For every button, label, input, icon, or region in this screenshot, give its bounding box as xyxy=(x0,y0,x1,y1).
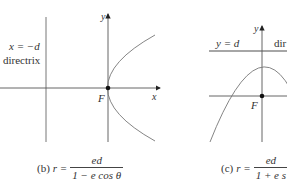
caption-prefix-c: (c) xyxy=(221,162,233,174)
focus-dot-b xyxy=(106,86,111,91)
caption-lhs-c: r = xyxy=(236,162,250,174)
caption-lhs-b: r = xyxy=(53,162,67,174)
parabola-c xyxy=(210,67,287,142)
y-axis-label-b: y xyxy=(101,12,105,22)
panel-b xyxy=(0,14,160,142)
caption-prefix-b: (b) xyxy=(37,162,50,174)
directrix-label-b: directrix xyxy=(3,55,40,66)
focus-label-b: F xyxy=(98,93,105,104)
focus-dot-c xyxy=(260,94,265,99)
focus-label-c: F xyxy=(251,100,258,111)
directrix-equation-c: y = d xyxy=(216,38,239,49)
denominator-c: 1 + e s xyxy=(254,167,287,181)
numerator-c: ed xyxy=(264,154,278,167)
denominator-b: 1 − e cos θ xyxy=(70,167,123,181)
caption-c: (c) r = ed 1 + e s xyxy=(221,154,287,181)
directrix-label-c: dir xyxy=(274,38,286,49)
y-axis-label-c: y xyxy=(254,24,258,34)
directrix-equation-b: x = −d xyxy=(9,41,40,52)
x-axis-label-b: x xyxy=(152,92,156,102)
fraction-b: ed 1 − e cos θ xyxy=(70,154,123,181)
caption-b: (b) r = ed 1 − e cos θ xyxy=(37,154,123,181)
fraction-c: ed 1 + e s xyxy=(254,154,287,181)
numerator-b: ed xyxy=(90,154,104,167)
